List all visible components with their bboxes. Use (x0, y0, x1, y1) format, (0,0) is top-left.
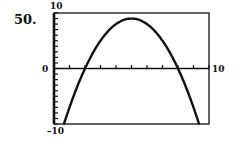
parabola-curve (63, 19, 199, 124)
parabola-chart (0, 0, 234, 144)
